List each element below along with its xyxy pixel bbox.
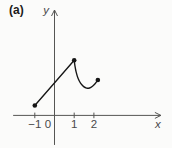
plot-svg: −1120xy [0,0,172,148]
tick-label: −1 [28,118,41,130]
origin-label: 0 [45,118,51,130]
x-axis-label: x [154,118,162,130]
data-point-dot [33,103,38,108]
y-axis-label: y [42,4,50,16]
tick-label: 2 [91,118,97,130]
function-curve [74,60,98,88]
tick-label: 1 [71,118,77,130]
figure: (a) −1120xy [0,0,172,148]
data-point-dot [96,78,101,83]
data-point-dot [72,58,77,63]
